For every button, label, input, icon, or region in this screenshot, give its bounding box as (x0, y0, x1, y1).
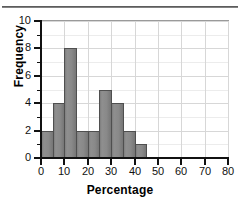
top-divider-rule (2, 6, 238, 8)
x-axis-title: Percentage (0, 183, 240, 197)
y-axis-title: Frequency (12, 0, 26, 116)
y-axis-line (40, 20, 42, 159)
x-tick-label: 10 (51, 166, 77, 177)
x-tick-label: 30 (98, 166, 124, 177)
x-tick-label: 60 (168, 166, 194, 177)
x-tick-label: 80 (215, 166, 240, 177)
gridline-vertical (158, 21, 159, 158)
y-tick-label: 2 (9, 125, 31, 136)
gridline-vertical (181, 21, 182, 158)
histogram-bar (135, 144, 147, 158)
y-tick-label: 0 (9, 152, 31, 163)
x-axis-line (40, 157, 229, 159)
gridline-vertical (228, 21, 229, 158)
histogram-figure: 0246810 01020304050607080 Frequency Perc… (0, 0, 240, 205)
gridline-vertical (205, 21, 206, 158)
